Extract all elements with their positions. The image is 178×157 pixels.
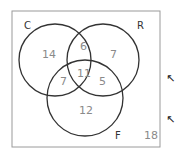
set-label-f: F — [115, 130, 121, 141]
venn-diagram: C R F 14 7 6 7 11 5 12 18 ↖ ↖ — [0, 0, 178, 157]
arrow-up-left-icon: ↖ — [166, 72, 175, 85]
region-f-only: 12 — [79, 104, 93, 117]
region-c-and-r: 6 — [80, 40, 87, 53]
region-r-only: 7 — [110, 48, 117, 61]
region-outside: 18 — [144, 129, 158, 142]
arrow-up-left-icon: ↖ — [166, 113, 175, 126]
region-r-and-f: 5 — [99, 75, 106, 88]
region-c-only: 14 — [42, 48, 56, 61]
set-label-r: R — [137, 20, 144, 31]
region-c-r-f: 11 — [77, 67, 91, 80]
set-label-c: C — [24, 20, 31, 31]
region-c-and-f: 7 — [60, 75, 67, 88]
